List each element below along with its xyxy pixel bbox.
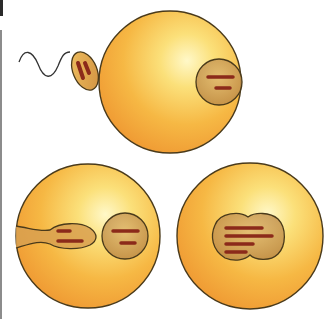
egg-nucleus <box>196 59 242 105</box>
egg-pronucleus <box>102 213 148 259</box>
sperm-head <box>66 48 103 94</box>
panel-sperm-entry <box>16 164 160 308</box>
sperm-tail <box>19 52 70 76</box>
panel-pronuclei-fusion <box>177 163 323 309</box>
fertilization-diagram <box>0 0 329 319</box>
panel-sperm-contact <box>19 11 242 153</box>
